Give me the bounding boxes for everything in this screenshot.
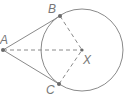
label-x: X [82,53,92,67]
point-a [1,48,5,52]
tangent-ac [3,50,59,84]
tangent-diagram: A B C X [0,0,129,96]
label-c: C [46,83,55,96]
radius-xb [60,16,82,50]
point-b [58,14,62,18]
label-b: B [48,2,56,16]
tangent-ab [3,16,60,50]
radius-xc [59,50,82,84]
point-c [57,82,61,86]
label-a: A [0,33,8,47]
point-x [80,48,83,51]
